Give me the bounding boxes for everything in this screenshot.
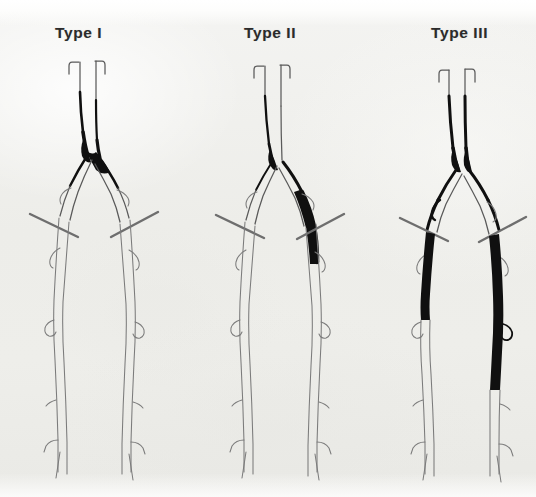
common-iliac-artery-left-3: [464, 170, 499, 234]
renal-artery-stub-group-2: [254, 65, 290, 78]
common-iliac-artery-right-1: [60, 156, 92, 220]
superficial-femoral-artery-right-3: [421, 320, 434, 476]
panel-type-1: [30, 61, 158, 480]
vessel-diagram-canvas: [0, 0, 536, 497]
panel-type-2: [216, 65, 344, 480]
abdominal-aorta-2: [265, 65, 282, 162]
superficial-femoral-artery-left-1: [120, 220, 135, 474]
profunda-femoris-artery-group-1: [50, 248, 139, 270]
tibioperoneal-trunk-group-1: [44, 400, 145, 480]
geniculate-branch-group-1: [45, 320, 144, 338]
internal-iliac-artery-group-3: [432, 200, 496, 222]
figure-root: Type I Type II Type III: [0, 0, 536, 497]
tibioperoneal-trunk-group-2: [230, 400, 331, 480]
geniculate-branch-group-2: [231, 320, 330, 338]
tibioperoneal-trunk-group-3: [411, 400, 513, 482]
common-iliac-artery-right-3: [427, 170, 462, 232]
inguinal-ligament-marker-group-1: [30, 212, 158, 237]
superficial-femoral-artery-right-2: [240, 222, 255, 474]
common-iliac-artery-right-2: [246, 162, 277, 224]
inguinal-ligament-marker-group-3: [400, 217, 526, 242]
renal-artery-stub-group-1: [69, 61, 105, 74]
inguinal-ligament-marker-group-2: [216, 214, 344, 239]
internal-iliac-artery-group-1: [60, 188, 129, 206]
superficial-femoral-artery-right-1: [54, 218, 69, 474]
superficial-femoral-occlusion-right-3: [421, 232, 436, 320]
panel-type-3: [400, 69, 526, 482]
renal-artery-stub-group-3: [439, 69, 475, 82]
